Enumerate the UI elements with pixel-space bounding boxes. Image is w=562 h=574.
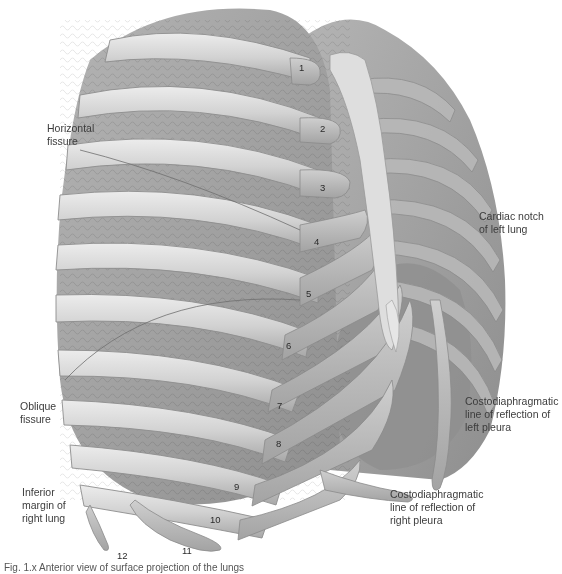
label-oblique-fissure: Oblique fissure bbox=[20, 400, 56, 426]
rib-12 bbox=[86, 505, 109, 550]
rib-number-7: 7 bbox=[277, 400, 282, 411]
label-horizontal-fissure: Horizontal fissure bbox=[47, 122, 94, 148]
rib-number-6: 6 bbox=[286, 340, 291, 351]
rib-number-12: 12 bbox=[117, 550, 128, 561]
rib-number-1: 1 bbox=[299, 62, 304, 73]
rib-number-8: 8 bbox=[276, 438, 281, 449]
label-inferior-margin-right-lung: Inferior margin of right lung bbox=[22, 486, 66, 525]
rib-number-3: 3 bbox=[320, 182, 325, 193]
rib-number-4: 4 bbox=[314, 236, 319, 247]
rib-number-5: 5 bbox=[306, 288, 311, 299]
rib-number-11: 11 bbox=[182, 545, 192, 556]
rib-number-10: 10 bbox=[210, 514, 221, 525]
label-costodiaphragmatic-left-pleura: Costodiaphragmatic line of reflection of… bbox=[465, 395, 558, 434]
label-cardiac-notch: Cardiac notch of left lung bbox=[479, 210, 544, 236]
figure-caption: Fig. 1.x Anterior view of surface projec… bbox=[4, 562, 244, 573]
label-costodiaphragmatic-right-pleura: Costodiaphragmatic line of reflection of… bbox=[390, 488, 483, 527]
rib-number-2: 2 bbox=[320, 123, 325, 134]
rib-number-9: 9 bbox=[234, 481, 239, 492]
